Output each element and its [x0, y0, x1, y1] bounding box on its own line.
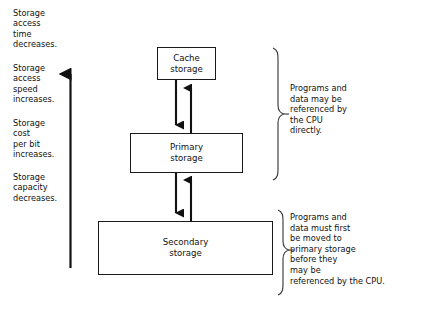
- box-cache-storage: Cache storage: [157, 47, 216, 80]
- left-label-cost-per-bit: Storage cost per bit increases.: [13, 118, 71, 160]
- box-secondary-storage-label: Secondary storage: [163, 237, 209, 258]
- annotation-indirect-access: Programs and data must first be moved to…: [290, 212, 420, 286]
- annotation-direct-access: Programs and data may be referenced by t…: [290, 83, 400, 136]
- box-primary-storage-label: Primary storage: [170, 142, 203, 163]
- brace-direct-access: [273, 48, 289, 180]
- left-label-capacity: Storage capacity decreases.: [13, 172, 71, 203]
- box-cache-storage-label: Cache storage: [170, 53, 203, 74]
- left-label-access-time: Storage access time decreases.: [13, 8, 71, 50]
- box-primary-storage: Primary storage: [130, 133, 243, 173]
- box-secondary-storage: Secondary storage: [98, 221, 273, 275]
- diagram-canvas: Storage access time decreases. Storage a…: [0, 0, 427, 310]
- left-label-access-speed: Storage access speed increases.: [13, 63, 71, 105]
